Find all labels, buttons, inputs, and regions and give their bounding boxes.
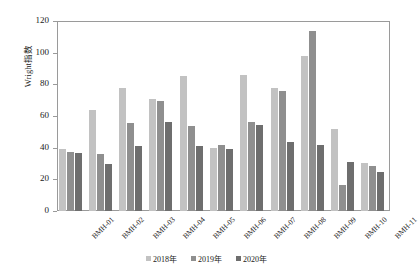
y-axis-tick-label: 60 xyxy=(40,110,49,120)
bars-layer xyxy=(57,21,390,211)
bar xyxy=(377,172,384,211)
bar-group xyxy=(301,21,324,211)
chart-legend: 2018年2019年2020年 xyxy=(0,253,413,264)
bar xyxy=(210,148,217,211)
bar xyxy=(361,163,368,211)
legend-label: 2020年 xyxy=(243,253,267,264)
bar xyxy=(256,125,263,211)
bar xyxy=(180,76,187,211)
y-axis-tick-label: 100 xyxy=(36,47,50,57)
legend-swatch-icon xyxy=(191,256,196,261)
bar xyxy=(188,126,195,211)
bar xyxy=(75,153,82,211)
bar xyxy=(240,75,247,211)
legend-item[interactable]: 2019年 xyxy=(191,253,222,264)
bar xyxy=(347,162,354,211)
bar-group xyxy=(149,21,172,211)
bar xyxy=(105,164,112,212)
y-axis-tick-label: 120 xyxy=(36,15,50,25)
x-axis-label: BMH-08 xyxy=(302,215,328,241)
bar xyxy=(309,31,316,211)
legend-label: 2019年 xyxy=(198,253,222,264)
y-axis-tick-label: 40 xyxy=(40,142,49,152)
y-axis-tick-label: 20 xyxy=(40,173,49,183)
bar xyxy=(287,142,294,211)
y-axis-title: Wright指数 xyxy=(21,11,33,121)
bar xyxy=(279,91,286,211)
bar xyxy=(248,122,255,211)
x-axis-label: BMH-11 xyxy=(393,215,418,241)
bar-group xyxy=(361,21,384,211)
x-axis-label: BMH-04 xyxy=(181,215,207,241)
bar xyxy=(317,145,324,211)
bar-group xyxy=(240,21,263,211)
bar-group xyxy=(119,21,142,211)
x-axis-label: BMH-09 xyxy=(332,215,358,241)
x-axis-label: BMH-05 xyxy=(211,215,237,241)
bar xyxy=(339,185,346,211)
bar xyxy=(67,152,74,211)
bar xyxy=(331,129,338,211)
bar-group xyxy=(210,21,233,211)
x-axis-label: BMH-03 xyxy=(151,215,177,241)
x-axis-label: BMH-01 xyxy=(90,215,116,241)
x-axis-label: BMH-02 xyxy=(120,215,146,241)
bar xyxy=(301,56,308,211)
legend-label: 2018年 xyxy=(153,253,177,264)
bar xyxy=(218,145,225,212)
bar xyxy=(59,149,66,211)
bar xyxy=(89,110,96,211)
bar xyxy=(157,101,164,211)
bar xyxy=(119,88,126,211)
bar-group xyxy=(59,21,82,211)
bar xyxy=(97,154,104,211)
bar xyxy=(369,166,376,211)
bar-group xyxy=(331,21,354,211)
legend-swatch-icon xyxy=(146,256,151,261)
legend-item[interactable]: 2020年 xyxy=(236,253,267,264)
bar xyxy=(127,123,134,211)
x-axis-label: BMH-06 xyxy=(242,215,268,241)
x-axis-labels: BMH-01BMH-02BMH-03BMH-04BMH-05BMH-06BMH-… xyxy=(57,211,390,257)
bar xyxy=(135,146,142,211)
y-axis-tick-label: 80 xyxy=(40,78,49,88)
bar-group xyxy=(89,21,112,211)
bar xyxy=(149,99,156,211)
bar xyxy=(196,146,203,211)
x-axis-label: BMH-07 xyxy=(272,215,298,241)
bar-group xyxy=(180,21,203,211)
x-axis-label: BMH-10 xyxy=(363,215,389,241)
legend-item[interactable]: 2018年 xyxy=(146,253,177,264)
bar xyxy=(271,88,278,212)
y-axis-tick-label: 0 xyxy=(45,205,50,215)
bar xyxy=(226,149,233,211)
bar-group xyxy=(271,21,294,211)
legend-swatch-icon xyxy=(236,256,241,261)
bar xyxy=(165,122,172,211)
